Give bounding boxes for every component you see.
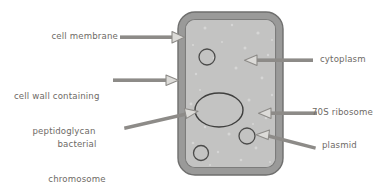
label-cell-wall-line-1: cell wall containing <box>14 91 114 103</box>
arrow-ribosome <box>259 108 318 118</box>
cytoplasm-area <box>186 20 275 167</box>
arrow-cell-membrane <box>120 32 185 43</box>
label-cell-membrane: cell membrane <box>28 31 118 43</box>
label-bacterial-chromosome-line-1: bacterial <box>36 139 118 151</box>
label-plasmid: plasmid <box>322 140 357 152</box>
label-bacterial-chromosome-line-2: chromosome <box>36 174 118 186</box>
label-bacterial-chromosome: bacterial chromosome <box>36 116 118 189</box>
label-cytoplasm: cytoplasm <box>320 54 366 66</box>
arrow-cell-wall <box>113 75 179 85</box>
bacterial-cell-diagram: cell membrane cell wall containing pepti… <box>0 0 392 189</box>
label-ribosome: 70S ribosome <box>312 107 373 119</box>
